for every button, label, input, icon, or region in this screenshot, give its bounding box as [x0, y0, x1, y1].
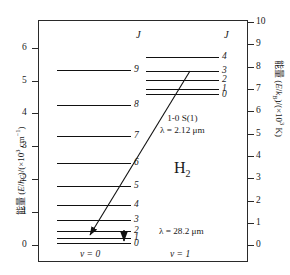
left-tick-2 — [32, 179, 38, 180]
right-tick-label-3: 3 — [256, 173, 261, 183]
right-tick-label-5: 5 — [256, 129, 261, 139]
level-v0-J8 — [57, 105, 131, 106]
left-tick-4 — [32, 113, 38, 114]
level-v1-J4 — [146, 57, 219, 58]
right-tick-2 — [248, 201, 254, 202]
species-subscript: 2 — [186, 168, 191, 179]
right-tick-6 — [248, 111, 254, 112]
energy-level-diagram: 6 5 4 3 2 1 0 能量 (E/hc)/(×103 cm−1) 10 9… — [0, 0, 290, 275]
level-label-v0-J3: 3 — [134, 215, 139, 225]
level-v0-J0 — [57, 243, 131, 244]
level-v1-J0 — [146, 94, 219, 95]
j-header-v1: J — [224, 30, 229, 41]
transition-name-text: 1-0 S(1) — [167, 113, 197, 123]
right-axis-title: 能量 (E/kB)/(×103 K) — [272, 60, 285, 137]
right-tick-label-1: 1 — [256, 218, 261, 228]
level-label-v1-J0: 0 — [222, 90, 227, 100]
transition-name-label: 1-0 S(1) — [160, 113, 205, 125]
level-v1-J2 — [146, 80, 219, 81]
level-v1-J3 — [146, 71, 219, 72]
level-v0-J3 — [57, 220, 131, 221]
level-label-v0-J4: 4 — [134, 200, 139, 210]
right-tick-10 — [248, 22, 254, 23]
right-tick-0 — [248, 245, 254, 246]
level-v0-J5 — [57, 186, 131, 187]
v1-label-text: v = 1 — [170, 249, 190, 259]
level-label-v0-J9: 9 — [134, 65, 139, 75]
right-tick-label-2: 2 — [256, 196, 261, 206]
right-tick-label-10: 10 — [256, 17, 266, 27]
right-tick-4 — [248, 156, 254, 157]
left-tick-label-6: 6 — [22, 43, 27, 53]
right-tick-label-6: 6 — [256, 106, 261, 116]
right-tick-label-9: 9 — [256, 39, 261, 49]
left-tick-5 — [32, 81, 38, 82]
level-label-v0-J7: 7 — [134, 131, 139, 141]
left-tick-6 — [32, 48, 38, 49]
left-axis-title-cjk: 能量 — [16, 197, 26, 215]
far-ir-wavelength-label: λ = 28.2 μm — [159, 226, 204, 238]
right-tick-9 — [248, 44, 254, 45]
level-label-v0-J6: 6 — [134, 158, 139, 168]
left-axis-title: 能量 (E/hc)/(×103 cm−1) — [15, 127, 26, 215]
right-axis-title-math: (E/kB)/(×103 K) — [274, 80, 284, 137]
left-tick-3 — [32, 146, 38, 147]
left-tick-1 — [32, 212, 38, 213]
right-axis-title-cjk: 能量 — [274, 60, 284, 78]
level-v0-J4 — [57, 205, 131, 206]
v1-label: v = 1 — [170, 250, 190, 260]
v0-label-text: v = 0 — [80, 249, 100, 259]
level-label-v0-J0: 0 — [134, 239, 139, 249]
level-label-v1-J4: 4 — [222, 52, 227, 62]
right-tick-1 — [248, 223, 254, 224]
left-tick-label-4: 4 — [22, 108, 27, 118]
right-tick-label-0: 0 — [256, 240, 261, 250]
species-label: H2 — [174, 160, 191, 179]
level-v0-J7 — [57, 136, 131, 137]
level-label-v0-J5: 5 — [134, 181, 139, 191]
right-tick-label-7: 7 — [256, 84, 261, 94]
left-axis-title-math: (E/hc)/(×103 cm−1) — [16, 127, 26, 195]
level-v1-J1 — [146, 89, 219, 90]
right-tick-7 — [248, 89, 254, 90]
right-tick-label-8: 8 — [256, 62, 261, 72]
level-v0-J1 — [57, 238, 131, 239]
j-header-v0: J — [136, 30, 141, 41]
right-tick-label-4: 4 — [256, 151, 261, 161]
left-tick-0 — [32, 245, 38, 246]
left-tick-label-0: 0 — [22, 240, 27, 250]
species-symbol: H — [174, 159, 186, 176]
level-v0-J9 — [57, 70, 131, 71]
transition-annotation-near-ir: 1-0 S(1) λ = 2.12 μm — [160, 113, 205, 136]
level-v0-J6 — [57, 163, 131, 164]
transition-wavelength-label: λ = 2.12 μm — [160, 125, 205, 137]
level-label-v0-J8: 8 — [134, 100, 139, 110]
right-tick-8 — [248, 67, 254, 68]
left-tick-label-5: 5 — [22, 76, 27, 86]
level-v0-J2 — [57, 231, 131, 232]
right-tick-5 — [248, 134, 254, 135]
v0-label: v = 0 — [80, 250, 100, 260]
right-tick-3 — [248, 178, 254, 179]
